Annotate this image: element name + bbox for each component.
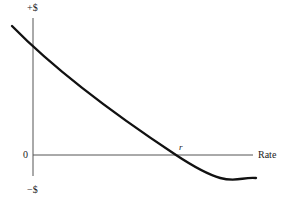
npv-curve — [12, 26, 256, 180]
y-axis-bottom-label: −$ — [27, 185, 38, 195]
origin-zero-label: 0 — [23, 150, 28, 160]
y-axis-top-label: +$ — [27, 3, 38, 13]
npv-chart: +$ 0 −$ Rate r — [0, 0, 290, 200]
x-axis-label: Rate — [258, 150, 276, 160]
r-crossing-label: r — [179, 143, 183, 152]
chart-canvas — [0, 0, 290, 200]
